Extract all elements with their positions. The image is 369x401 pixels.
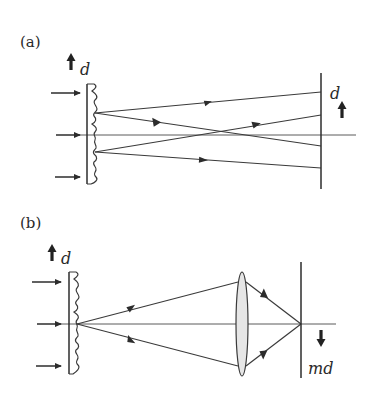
grating-period-label-b: d [61, 249, 71, 268]
panel-b-label: (b) [20, 214, 41, 232]
incident-arrows-b [32, 282, 61, 366]
image-period-label-b: md [308, 359, 333, 378]
panel-b: (b) d [20, 214, 336, 378]
image-period-label-a: d [330, 84, 340, 103]
grating-a [87, 84, 97, 184]
grating-period-up-arrow-icon [48, 244, 57, 261]
grating-b [69, 272, 79, 374]
rays-a [95, 92, 321, 168]
converging-lens [236, 272, 248, 376]
grating-period-up-arrow-icon [67, 53, 76, 70]
incident-arrows-a [51, 93, 80, 177]
image-period-down-arrow-icon [317, 330, 326, 347]
panel-a: (a) d [20, 33, 356, 189]
panel-a-label: (a) [20, 33, 41, 51]
optics-diagram: (a) d [0, 0, 369, 401]
grating-period-label-a: d [80, 60, 90, 79]
image-period-up-arrow-icon [338, 101, 347, 118]
